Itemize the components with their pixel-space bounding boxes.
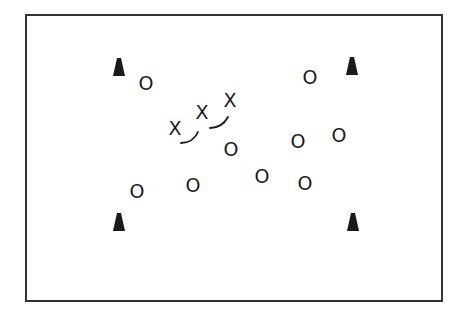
defender-o: O bbox=[255, 165, 270, 187]
attacker-x: X bbox=[223, 89, 236, 111]
cone-bottom-right-icon bbox=[347, 213, 359, 231]
defender-o: O bbox=[224, 138, 239, 160]
defender-o: O bbox=[303, 66, 318, 88]
cone-top-right-icon bbox=[346, 57, 358, 75]
cone-top-left-icon bbox=[113, 58, 125, 76]
cone-bottom-left-icon bbox=[113, 213, 125, 231]
defender-o: O bbox=[186, 174, 201, 196]
defender-o: O bbox=[139, 72, 154, 94]
attacker-x: X bbox=[168, 117, 181, 139]
drill-diagram: XXXOOOOOOOOO bbox=[0, 0, 464, 317]
defender-o: O bbox=[291, 130, 306, 152]
movement-arc bbox=[210, 117, 228, 128]
movement-arc bbox=[181, 132, 198, 143]
defender-o: O bbox=[298, 172, 313, 194]
attacker-x: X bbox=[195, 101, 208, 123]
defender-o: O bbox=[332, 124, 347, 146]
defender-o: O bbox=[130, 180, 145, 202]
